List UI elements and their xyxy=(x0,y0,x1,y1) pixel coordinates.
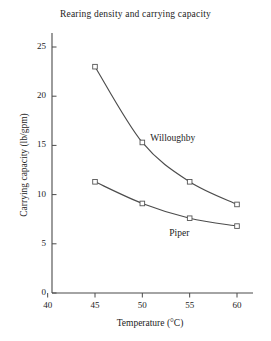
data-point-marker xyxy=(235,224,240,229)
x-tick-label: 55 xyxy=(178,300,202,310)
data-point-marker xyxy=(187,180,192,185)
y-tick-label: 5 xyxy=(24,238,46,248)
data-point-marker xyxy=(235,202,240,207)
y-tick-label: 10 xyxy=(24,189,46,199)
data-point-marker xyxy=(140,201,145,206)
chart-container: Rearing density and carrying capacity Ca… xyxy=(0,0,271,341)
data-point-marker xyxy=(140,140,145,145)
x-tick-label: 50 xyxy=(130,300,154,310)
y-tick-label: 25 xyxy=(24,41,46,51)
x-tick-label: 45 xyxy=(83,300,107,310)
y-tick-label: 20 xyxy=(24,90,46,100)
x-tick-label: 60 xyxy=(225,300,249,310)
y-tick-label: 0 xyxy=(24,287,46,297)
series-line-piper xyxy=(95,182,237,226)
x-tick-label: 40 xyxy=(36,300,60,310)
data-point-marker xyxy=(93,64,98,69)
data-point-marker xyxy=(93,180,98,185)
data-point-marker xyxy=(187,216,192,221)
y-tick-label: 15 xyxy=(24,139,46,149)
series-label-willoughby: Willoughby xyxy=(150,133,195,143)
series-label-piper: Piper xyxy=(169,228,189,238)
